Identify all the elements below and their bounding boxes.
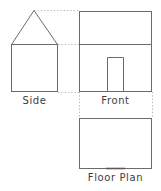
floor-plan-outline-rect bbox=[80, 119, 152, 169]
front-view-shape bbox=[80, 12, 152, 92]
front-view-door bbox=[108, 58, 124, 92]
side-view-roof-triangle bbox=[12, 11, 58, 45]
floor-plan-view-shape bbox=[80, 119, 152, 169]
side-view-label: Side bbox=[11, 95, 58, 106]
side-view-wall-rect bbox=[12, 45, 58, 92]
front-view-outline-rect bbox=[80, 12, 152, 92]
floor-plan-view-label: Floor Plan bbox=[79, 172, 152, 183]
front-view-label: Front bbox=[79, 95, 152, 106]
side-view-shape bbox=[12, 11, 58, 92]
orthographic-projection-diagram: Side Front Floor Plan bbox=[0, 0, 161, 191]
